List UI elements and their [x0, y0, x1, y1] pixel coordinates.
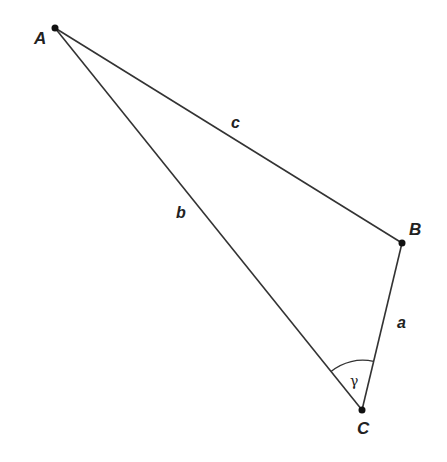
- vertex-A-point: [52, 25, 59, 32]
- side-b: [55, 28, 362, 410]
- side-c: [55, 28, 402, 243]
- vertex-A-label: A: [33, 29, 46, 48]
- side-b-label: b: [176, 204, 186, 221]
- side-c-label: c: [231, 114, 240, 131]
- triangle-diagram: A B C a b c γ: [0, 0, 447, 462]
- angle-gamma-arc: [331, 360, 374, 371]
- vertex-C-point: [359, 407, 366, 414]
- vertex-C-label: C: [357, 419, 370, 438]
- angle-gamma-label: γ: [350, 373, 358, 389]
- side-a: [362, 243, 402, 410]
- side-a-label: a: [397, 314, 406, 331]
- vertex-B-label: B: [409, 220, 421, 239]
- vertex-B-point: [399, 240, 406, 247]
